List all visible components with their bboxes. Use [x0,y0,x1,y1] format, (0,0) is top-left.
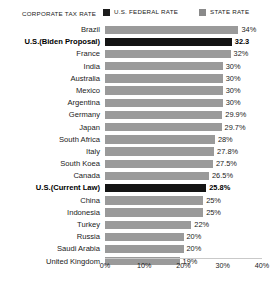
bar-value-label: 30% [226,61,241,73]
bar-value-label: 22% [194,219,209,231]
bar [105,99,223,107]
bar-track: 34% [105,24,262,36]
bar [105,86,223,94]
bar-row: Italy27.8% [0,146,272,158]
bar-category-label: Italy [0,146,100,158]
bar [105,221,191,229]
bar-category-label: South Koea [0,158,100,170]
bar-value-label: 32.3 [235,36,249,48]
bar-row: Canada26.5% [0,170,272,182]
bar-row: Argentina30% [0,97,272,109]
bar-row: Indonesia25% [0,207,272,219]
bar-track: 29.9% [105,109,262,121]
x-axis-tick-label: 20% [176,261,190,270]
bar-track: 32.3 [105,36,262,48]
bar-track: 28% [105,134,262,146]
bar-row: Japan29.7% [0,122,272,134]
bar-category-label: Argentina [0,97,100,109]
x-axis-line [105,258,262,259]
bar-track: 20% [105,231,262,243]
bar-value-label: 28% [218,134,233,146]
bar [105,38,232,46]
bar-track: 30% [105,73,262,85]
bar [105,160,213,168]
bar [105,196,203,204]
bar-row: Germany29.9% [0,109,272,121]
legend-label-federal: U.S. FEDERAL RATE [114,8,178,16]
bar-track: 26.5% [105,170,262,182]
legend-title: CORPORATE TAX RATE [22,10,96,17]
bar-row: China25% [0,195,272,207]
bar-track: 20% [105,243,262,255]
bar-track: 27.8% [105,146,262,158]
bar-row: Brazil34% [0,24,272,36]
bar [105,50,231,58]
bar-row: India30% [0,61,272,73]
legend-swatch-icon-state [199,9,206,16]
bar-value-label: 27.8% [217,146,238,158]
bar-value-label: 30% [226,85,241,97]
bar-value-label: 34% [241,24,256,36]
plot-area: Brazil34%U.S.(Biden Proposal)32.3France3… [0,24,272,256]
bar-track: 30% [105,97,262,109]
bar-track: 25% [105,207,262,219]
bar [105,74,223,82]
bar-value-label: 30% [226,97,241,109]
bar-category-label: Saudi Arabia [0,243,100,255]
bar-row: U.S.(Current Law)25.8% [0,182,272,194]
bar-category-label: Brazil [0,24,100,36]
bar [105,245,184,253]
x-axis-tick-label: 40% [255,261,269,270]
bar-category-label: Turkey [0,219,100,231]
bar-track: 25% [105,195,262,207]
bar-category-label: Australia [0,73,100,85]
bar-value-label: 25.8% [209,182,230,194]
bar [105,172,209,180]
bar-category-label: Canada [0,170,100,182]
bar [105,233,184,241]
bar [105,26,238,34]
bar-track: 30% [105,85,262,97]
bar-value-label: 27.5% [216,158,237,170]
bar-value-label: 32% [234,48,249,60]
bar [105,147,214,155]
bar-value-label: 29.7% [225,122,246,134]
bar-track: 32% [105,48,262,60]
bar-value-label: 26.5% [212,170,233,182]
bar-track: 22% [105,219,262,231]
x-axis: 0%10%20%30%40% [105,258,262,272]
bar [105,208,203,216]
bar-value-label: 29.9% [225,109,246,121]
bar-category-label: Russia [0,231,100,243]
bar-category-label: South Africa [0,134,100,146]
legend-entry-us-federal-rate: U.S. FEDERAL RATE [103,8,178,16]
bar-track: 25.8% [105,182,262,194]
bar-row: Turkey22% [0,219,272,231]
bar-value-label: 25% [206,195,221,207]
bar [105,111,222,119]
bar-row: Australia30% [0,73,272,85]
bar-value-label: 25% [206,207,221,219]
bar-category-label: United Kingdom [0,256,100,268]
bar-category-label: France [0,48,100,60]
bar-row: Russia20% [0,231,272,243]
bar [105,123,222,131]
legend-swatch-icon-federal [103,9,110,16]
bar-category-label: Germany [0,109,100,121]
bar-category-label: Japan [0,122,100,134]
bar-row: Mexico30% [0,85,272,97]
bar-value-label: 20% [187,231,202,243]
x-axis-tick-label: 10% [137,261,151,270]
bar-row: South Koea27.5% [0,158,272,170]
bar-row: Saudi Arabia20% [0,243,272,255]
bar-track: 30% [105,61,262,73]
bar-track: 27.5% [105,158,262,170]
bar-category-label: Mexico [0,85,100,97]
bar [105,62,223,70]
bar-category-label: India [0,61,100,73]
bar-value-label: 20% [187,243,202,255]
bar-category-label: China [0,195,100,207]
legend-label-state: STATE RATE [210,8,249,16]
bar-value-label: 30% [226,73,241,85]
chart-legend: CORPORATE TAX RATE U.S. FEDERAL RATE STA… [0,8,272,22]
